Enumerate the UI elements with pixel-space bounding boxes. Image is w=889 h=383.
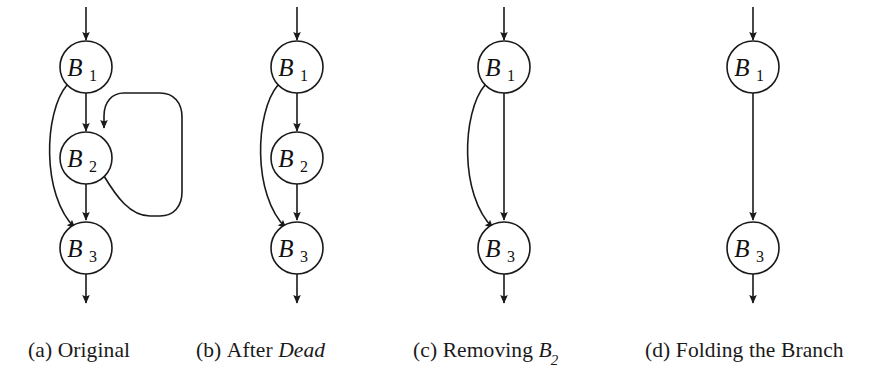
node-b3-subscript: 3 xyxy=(756,248,764,265)
panel-b-after-dead: B 1 B 2 B 3 xyxy=(225,0,385,330)
panel-c-removing-b2: B 1 B 3 xyxy=(440,0,600,330)
node-b1-letter: B xyxy=(485,54,500,81)
node-b3-subscript: 3 xyxy=(507,248,515,265)
caption-c-prefix: (c) xyxy=(413,338,437,362)
node-b1-letter: B xyxy=(734,54,749,81)
caption-b-emphasis: Dead xyxy=(278,338,325,362)
node-b2-subscript: 2 xyxy=(300,158,308,175)
node-b1-subscript: 1 xyxy=(300,67,308,84)
graph-d: B 1 B 3 xyxy=(690,0,850,330)
node-b3-letter: B xyxy=(734,235,749,262)
node-b3-subscript: 3 xyxy=(300,248,308,265)
caption-a-prefix: (a) xyxy=(28,338,52,362)
caption-c-text: Removing xyxy=(443,338,533,362)
node-b3-letter: B xyxy=(67,235,82,262)
node-b1-letter: B xyxy=(278,54,293,81)
graph-b: B 1 B 2 B 3 xyxy=(225,0,385,330)
caption-a-text: Original xyxy=(58,338,130,362)
caption-c-variable: B xyxy=(539,338,552,362)
edge-b1-to-b3-curve xyxy=(468,85,493,228)
node-b2-letter: B xyxy=(278,145,293,172)
node-b2-subscript: 2 xyxy=(89,158,97,175)
panel-d-folding-branch: B 1 B 3 xyxy=(690,0,850,330)
edge-b2-back-edge xyxy=(104,93,182,216)
caption-d: (d) Folding the Branch xyxy=(645,338,844,363)
node-b3[interactable]: B 3 xyxy=(271,222,323,274)
caption-d-prefix: (d) xyxy=(645,338,670,362)
node-b3[interactable]: B 3 xyxy=(727,222,779,274)
caption-c: (c) Removing B2 xyxy=(413,338,559,366)
node-b2-letter: B xyxy=(67,145,82,172)
caption-a: (a) Original xyxy=(28,338,130,363)
node-b3-letter: B xyxy=(485,235,500,262)
graph-c: B 1 B 3 xyxy=(440,0,600,330)
caption-b: (b) After Dead xyxy=(196,338,325,363)
graph-a: B 1 B 2 B 3 xyxy=(0,0,210,330)
node-b1-subscript: 1 xyxy=(89,67,97,84)
node-b3-subscript: 3 xyxy=(89,248,97,265)
node-b1-subscript: 1 xyxy=(507,67,515,84)
node-b1[interactable]: B 1 xyxy=(271,41,323,93)
node-b2[interactable]: B 2 xyxy=(271,132,323,184)
figure-root: B 1 B 2 B 3 xyxy=(0,0,889,383)
node-b1-letter: B xyxy=(67,54,82,81)
node-b1[interactable]: B 1 xyxy=(60,41,112,93)
caption-row: (a) Original (b) After Dead (c) Removing… xyxy=(0,330,889,383)
node-b2[interactable]: B 2 xyxy=(60,132,112,184)
caption-d-text: Folding the Branch xyxy=(676,338,844,362)
node-b3-letter: B xyxy=(278,235,293,262)
caption-b-text: After xyxy=(227,338,273,362)
caption-b-prefix: (b) xyxy=(196,338,221,362)
caption-c-subscript: 2 xyxy=(551,352,559,368)
node-b1[interactable]: B 1 xyxy=(727,41,779,93)
panel-a-original: B 1 B 2 B 3 xyxy=(0,0,210,330)
node-b1[interactable]: B 1 xyxy=(478,41,530,93)
node-b3[interactable]: B 3 xyxy=(478,222,530,274)
node-b1-subscript: 1 xyxy=(756,67,764,84)
node-b3[interactable]: B 3 xyxy=(60,222,112,274)
